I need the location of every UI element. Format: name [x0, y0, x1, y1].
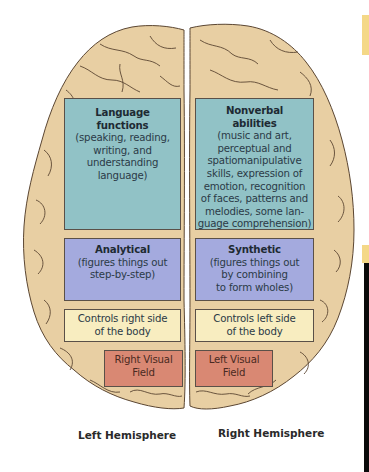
controls-left-side-region: Controls left side of the body	[195, 309, 314, 342]
right-visual-line: Right Visual	[105, 354, 182, 367]
nonverbal-abilities-region: Nonverbal abilities (music and art, perc…	[195, 98, 314, 230]
left-visual-field-region: Left Visual Field	[195, 350, 273, 387]
nonverbal-body-line: emotion, recognition	[196, 181, 313, 194]
right-hemisphere-label: Right Hemisphere	[218, 427, 324, 439]
analytical-body-line: step-by-step)	[65, 269, 180, 282]
language-body-line: understanding	[65, 157, 180, 170]
analytical-region: Analytical (figures things out step-by-s…	[64, 238, 181, 301]
controls-right-line: of the body	[65, 326, 180, 339]
brain-illustration	[0, 0, 369, 472]
nonverbal-body-line: perceptual and	[196, 143, 313, 156]
left-visual-line: Field	[196, 367, 272, 380]
synthetic-body-line: by combining	[196, 269, 313, 282]
nonverbal-title-line1: Nonverbal	[196, 105, 313, 118]
analytical-body-line: (figures things out	[65, 257, 180, 270]
language-title-line2: functions	[65, 120, 180, 133]
language-body-line: writing, and	[65, 145, 180, 158]
nonverbal-body-line: spatiomanipulative	[196, 155, 313, 168]
left-hemisphere-label: Left Hemisphere	[78, 429, 176, 441]
nonverbal-body-line: melodies, some lan-	[196, 206, 313, 219]
controls-left-line: of the body	[196, 326, 313, 339]
nonverbal-body-line: skills, expression of	[196, 168, 313, 181]
right-visual-line: Field	[105, 367, 182, 380]
synthetic-title: Synthetic	[196, 244, 313, 257]
controls-right-line: Controls right side	[65, 313, 180, 326]
edge-accent-bar	[362, 245, 369, 263]
synthetic-region: Synthetic (figures things out by combini…	[195, 238, 314, 301]
left-visual-line: Left Visual	[196, 354, 272, 367]
nonverbal-title-line2: abilities	[196, 118, 313, 131]
language-body-line: (speaking, reading,	[65, 132, 180, 145]
synthetic-body-line: (figures things out	[196, 257, 313, 270]
nonverbal-body-line: (music and art,	[196, 130, 313, 143]
controls-right-side-region: Controls right side of the body	[64, 309, 181, 342]
edge-accent-top	[362, 15, 369, 55]
right-visual-field-region: Right Visual Field	[104, 350, 183, 387]
synthetic-body-line: to form wholes)	[196, 282, 313, 295]
analytical-title: Analytical	[65, 244, 180, 257]
nonverbal-body-line: of faces, patterns and	[196, 193, 313, 206]
language-functions-region: Language functions (speaking, reading, w…	[64, 98, 181, 230]
controls-left-line: Controls left side	[196, 313, 313, 326]
language-title-line1: Language	[65, 107, 180, 120]
language-body-line: language)	[65, 170, 180, 183]
nonverbal-body-line: guage comprehension)	[196, 218, 313, 231]
edge-accent-black	[364, 263, 369, 472]
